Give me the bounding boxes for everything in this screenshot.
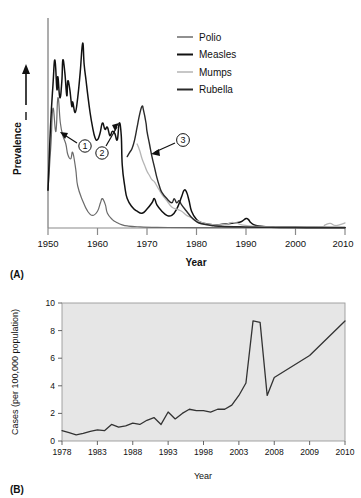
legend-label-mumps: Mumps [199, 67, 232, 78]
panel-a-xtick-1970: 1970 [136, 238, 157, 249]
panel-b-xtick-2003: 2003 [229, 447, 248, 457]
panel-b-plot-area [62, 303, 345, 441]
panel-b-ytick-4: 4 [50, 381, 55, 391]
panel-a-xtick-1990: 1990 [235, 238, 256, 249]
panel-a-x-axis-label: Year [185, 257, 206, 268]
panel-b-ytick-10: 10 [46, 298, 56, 308]
panel-a-xtick-1980: 1980 [186, 238, 207, 249]
panel-b-x-axis-label: Year [194, 471, 212, 481]
prevalence-arrow-icon [22, 64, 30, 120]
panel-b-xtick-2010: 2010 [336, 447, 355, 457]
figure-container: Prevalence 1950 1960 1970 1980 1990 2000… [0, 0, 361, 498]
panel-a-xtick-1950: 1950 [37, 238, 58, 249]
panel-a-line-measles [48, 43, 345, 227]
panel-b-y-axis-label: Cases (per 100,000 population) [10, 309, 20, 435]
panel-b-chart: 0246810 19781983198819931998200320082009… [0, 285, 361, 498]
panel-a-tag: (A) [10, 269, 24, 280]
panel-b-ytick-2: 2 [50, 408, 55, 418]
panel-a-y-axis-label: Prevalence [12, 122, 23, 175]
panel-b-xtick-1993: 1993 [159, 447, 178, 457]
panel-a-legend: PolioMeaslesMumpsRubella [177, 32, 236, 96]
panel-b-ytick-8: 8 [50, 326, 55, 336]
panel-b-x-ticks: 197819831988199319982003200820092010 [53, 441, 355, 457]
legend-label-rubella: Rubella [199, 84, 233, 95]
legend-label-polio: Polio [199, 32, 222, 43]
panel-a-line-polio [48, 98, 345, 228]
callout-2-label: 2 [99, 148, 104, 158]
callout-3-label: 3 [180, 135, 185, 145]
panel-a-line-mumps [137, 144, 345, 227]
panel-b-xtick-1988: 1988 [123, 447, 142, 457]
panel-b-ytick-6: 6 [50, 353, 55, 363]
panel-a-xtick-2000: 2000 [285, 238, 306, 249]
panel-b-xtick-1978: 1978 [53, 447, 72, 457]
panel-b-xtick-1998: 1998 [194, 447, 213, 457]
panel-b-xtick-2008: 2008 [265, 447, 284, 457]
panel-a: Prevalence 1950 1960 1970 1980 1990 2000… [0, 0, 361, 285]
panel-a-x-ticks [48, 228, 345, 235]
panel-a-callout-3: 3 [151, 134, 189, 156]
legend-label-measles: Measles [199, 49, 236, 60]
panel-a-xtick-1960: 1960 [87, 238, 108, 249]
panel-b-xtick-1983: 1983 [88, 447, 107, 457]
panel-b-xtick-2009: 2009 [300, 447, 319, 457]
panel-b-ytick-0: 0 [50, 436, 55, 446]
panel-a-chart: Prevalence 1950 1960 1970 1980 1990 2000… [0, 0, 361, 285]
panel-b-y-ticks: 0246810 [46, 298, 62, 446]
callout-1-label: 1 [82, 141, 87, 151]
panel-a-xtick-2010: 2010 [332, 238, 353, 249]
panel-a-series-group [48, 43, 345, 228]
panel-b: 0246810 19781983198819931998200320082009… [0, 285, 361, 498]
panel-b-tag: (B) [10, 484, 24, 495]
